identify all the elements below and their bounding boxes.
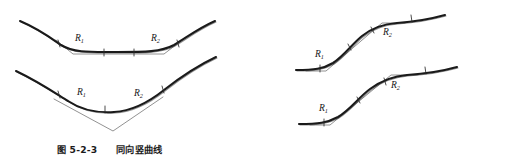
radius-label-r1: R1 — [314, 49, 324, 60]
figure-5-2-4: R1 R2 R1 R2 — [260, 0, 507, 167]
panel-upper-sag-flat: R1 R2 — [20, 21, 216, 56]
curve-shadow-lower-right — [300, 68, 458, 125]
panel-lower-sag-sharp: R1 R2 — [16, 57, 217, 131]
figure-5-2-3: R1 R2 R1 R2 — [0, 0, 260, 167]
radius-label-r1: R1 — [76, 87, 86, 98]
radius-label-r1: R1 — [318, 103, 328, 114]
radius-label-r2: R2 — [390, 80, 400, 91]
vertical-curve-upper-right — [296, 15, 445, 70]
figure-page: R1 R2 R1 R2 — [0, 0, 507, 167]
radius-label-r1: R1 — [74, 33, 84, 44]
figure-5-2-4-drawing: R1 R2 R1 R2 — [260, 0, 507, 140]
tangent-polyline-upper-right — [306, 23, 405, 71]
curve-shadow-lower-left — [17, 58, 217, 113]
vertical-curve-lower-left — [16, 57, 216, 112]
figure-caption-5-2-3: 图 5-2-3 同向竖曲线 — [57, 142, 162, 156]
panel-upper-reverse-s: R1 R2 — [296, 15, 446, 72]
vertical-curve-lower-right — [299, 67, 457, 124]
radius-label-r2: R2 — [150, 33, 160, 44]
radius-label-r2: R2 — [133, 88, 143, 99]
figure-5-2-3-drawing: R1 R2 R1 R2 — [0, 0, 260, 140]
radius-label-r2: R2 — [382, 27, 392, 38]
caption-number: 图 5-2-3 — [57, 144, 97, 155]
curve-shadow-upper-right — [297, 16, 446, 71]
panel-lower-reverse-s: R1 R2 — [299, 67, 458, 126]
tangent-polyline-lower-right — [310, 75, 418, 125]
vertical-curve-upper-left — [20, 21, 215, 52]
caption-title: 同向竖曲线 — [116, 144, 162, 155]
